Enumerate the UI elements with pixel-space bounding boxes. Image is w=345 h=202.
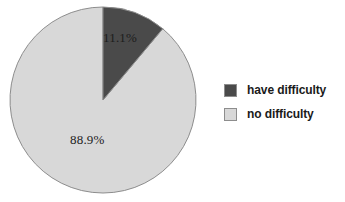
legend-item-no-difficulty: no difficulty bbox=[224, 102, 345, 126]
pie-label-have-difficulty: 11.1% bbox=[103, 31, 137, 44]
pie-plot-area: 11.1% 88.9% bbox=[0, 0, 210, 202]
legend-label-have-difficulty: have difficulty bbox=[247, 83, 326, 97]
legend-item-have-difficulty: have difficulty bbox=[224, 78, 345, 102]
legend-label-no-difficulty: no difficulty bbox=[247, 107, 314, 121]
clipped-caption-strip bbox=[0, 195, 345, 202]
chart-legend: have difficulty no difficulty bbox=[224, 78, 345, 126]
pie-chart-figure: 11.1% 88.9% have difficulty no difficult… bbox=[0, 0, 345, 202]
legend-swatch-icon-have-difficulty bbox=[224, 84, 237, 97]
legend-swatch-icon-no-difficulty bbox=[224, 108, 237, 121]
pie-label-no-difficulty: 88.9% bbox=[70, 133, 105, 146]
